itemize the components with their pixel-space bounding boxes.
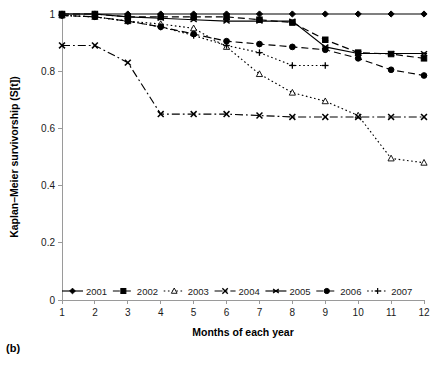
y-tick-label: 0.8	[41, 66, 55, 77]
kaplan-meier-chart: 00.20.40.60.81123456789101112Kaplan–Meie…	[0, 0, 431, 369]
x-tick-label: 1	[59, 307, 65, 318]
series-marker-2007	[289, 62, 296, 69]
series-marker-2004	[92, 43, 98, 49]
figure-panel: 00.20.40.60.81123456789101112Kaplan–Meie…	[0, 0, 431, 369]
series-marker-2004	[322, 114, 328, 120]
x-tick-label: 7	[257, 307, 263, 318]
x-tick-label: 11	[386, 307, 397, 318]
x-tick-label: 3	[125, 307, 131, 318]
legend-marker-2001	[70, 288, 76, 294]
series-marker-2002	[421, 56, 426, 61]
x-tick-label: 5	[191, 307, 197, 318]
series-line-2005	[62, 14, 424, 53]
series-marker-2001	[388, 11, 394, 17]
legend-label-2007: 2007	[391, 286, 412, 297]
series-marker-2003	[191, 25, 197, 31]
x-axis-title: Months of each year	[192, 326, 294, 338]
y-tick-label: 1	[49, 9, 55, 20]
series-marker-2006	[322, 47, 328, 53]
series-line-2004	[62, 45, 424, 117]
y-tick-label: 0.2	[41, 237, 55, 248]
x-tick-label: 8	[290, 307, 296, 318]
legend-label-2001: 2001	[86, 286, 107, 297]
x-tick-label: 2	[92, 307, 98, 318]
legend-marker-2002	[121, 288, 126, 293]
series-marker-2006	[421, 73, 427, 79]
series-marker-2001	[289, 11, 295, 17]
series-marker-2001	[322, 11, 328, 17]
series-line-2007	[62, 15, 325, 65]
panel-label: (b)	[6, 342, 20, 354]
x-tick-label: 10	[353, 307, 365, 318]
series-marker-2006	[257, 41, 263, 47]
series-marker-2007	[256, 49, 263, 56]
series-marker-2002	[224, 14, 229, 19]
series-marker-2006	[388, 67, 394, 73]
series-line-2003	[62, 15, 424, 162]
x-tick-label: 9	[322, 307, 328, 318]
series-marker-2006	[290, 44, 296, 50]
legend-marker-2006	[324, 288, 329, 293]
series-marker-2006	[355, 55, 361, 61]
series-marker-2005	[421, 51, 427, 55]
legend-marker-2005	[273, 289, 279, 293]
y-tick-label: 0	[49, 295, 55, 306]
legend-label-2006: 2006	[340, 286, 361, 297]
series-marker-2003	[256, 71, 262, 77]
legend-label-2005: 2005	[289, 286, 310, 297]
series-marker-2003	[421, 159, 427, 165]
series-line-2006	[62, 15, 424, 75]
series-marker-2003	[388, 155, 394, 161]
series-marker-2001	[421, 11, 427, 17]
legend-label-2003: 2003	[188, 286, 209, 297]
x-tick-label: 12	[418, 307, 430, 318]
legend-label-2004: 2004	[239, 286, 260, 297]
series-marker-2004	[125, 60, 131, 66]
series-marker-2003	[289, 89, 295, 95]
series-marker-2001	[355, 11, 361, 17]
x-tick-label: 4	[158, 307, 164, 318]
series-marker-2007	[322, 62, 329, 69]
legend-label-2002: 2002	[137, 286, 158, 297]
y-tick-label: 0.4	[41, 180, 55, 191]
series-marker-2001	[256, 11, 262, 17]
y-axis-title: Kaplan–Meier survivorship (S[t])	[8, 76, 20, 238]
legend-marker-2007	[375, 288, 381, 294]
series-marker-2004	[421, 114, 427, 120]
series-marker-2002	[323, 37, 328, 42]
y-tick-label: 0.6	[41, 123, 55, 134]
x-tick-label: 6	[224, 307, 230, 318]
